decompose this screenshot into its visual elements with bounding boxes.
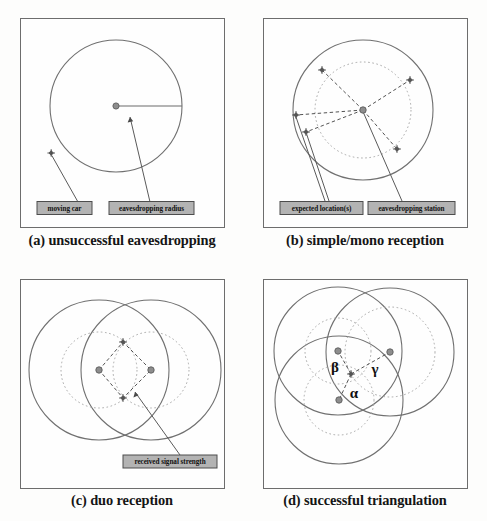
car-markers xyxy=(292,66,414,153)
car-marker xyxy=(47,149,55,157)
link-station-car-5 xyxy=(363,110,397,149)
station-marker xyxy=(96,367,102,373)
leader-line-moving-car xyxy=(52,156,78,203)
link-station-car-1 xyxy=(322,70,363,110)
reception-links xyxy=(296,70,410,149)
link-station-car-2 xyxy=(363,80,410,110)
label-eavesdropping-station-text: eavesdropping station xyxy=(378,205,444,213)
link-station-car-3 xyxy=(296,110,363,115)
label-eavesdropping-station: eavesdropping station xyxy=(368,202,455,215)
station-marker xyxy=(336,397,342,403)
label-eavesdropping-radius: eavesdropping radius xyxy=(109,202,194,215)
caption-panel-d: (d) successful triangulation xyxy=(245,492,485,509)
link-rhombus xyxy=(99,342,151,398)
duo-reception-links xyxy=(99,342,151,398)
annotation-beta: β xyxy=(331,359,339,375)
station-marker xyxy=(387,349,393,355)
label-moving-car: moving car xyxy=(37,202,92,215)
label-expected-locations: expected location(s) xyxy=(280,202,363,215)
annotation-alpha: α xyxy=(350,385,359,401)
leader-line-eavesdropping-radius xyxy=(130,117,150,202)
panel-d-successful-triangulation: β γ α xyxy=(263,279,468,489)
label-received-signal-strength: received signal strength xyxy=(123,455,217,468)
figure-four-panel-diagram: moving car eavesdropping radius (a) unsu… xyxy=(0,0,487,521)
caption-panel-a: (a) unsuccessful eavesdropping xyxy=(2,232,242,249)
leader-line-eavesdropping-station xyxy=(364,113,402,201)
panel-c-graphic: received signal strength xyxy=(20,279,225,489)
annotation-gamma: γ xyxy=(370,361,378,377)
caption-panel-b: (b) simple/mono reception xyxy=(245,232,485,249)
panel-a-graphic: moving car eavesdropping radius xyxy=(20,18,225,228)
panel-b-simple-mono-reception: expected location(s) eavesdropping stati… xyxy=(263,18,468,228)
car-marker xyxy=(318,66,326,74)
leader-line-received-signal-strength xyxy=(135,392,180,455)
station-marker xyxy=(360,107,366,113)
arrowhead-eavesdropping-radius xyxy=(128,117,134,122)
car-marker xyxy=(302,128,310,136)
label-expected-locations-text: expected location(s) xyxy=(292,205,352,213)
station-marker xyxy=(148,367,154,373)
panel-d-graphic: β γ α xyxy=(263,279,468,489)
leader-line-expected-location-2 xyxy=(307,134,329,201)
leader-line-expected-location-1 xyxy=(296,117,325,201)
car-marker xyxy=(406,76,414,84)
station-markers xyxy=(96,367,154,373)
station-marker xyxy=(113,103,119,109)
panel-b-graphic: expected location(s) eavesdropping stati… xyxy=(263,18,468,228)
station-marker xyxy=(335,348,341,354)
car-marker xyxy=(347,370,355,378)
label-moving-car-text: moving car xyxy=(47,205,82,213)
label-received-signal-strength-text: received signal strength xyxy=(134,458,205,466)
car-marker xyxy=(393,145,401,153)
caption-panel-c: (c) duo reception xyxy=(2,492,242,509)
label-eavesdropping-radius-text: eavesdropping radius xyxy=(119,205,184,213)
panel-a-unsuccessful-eavesdropping: moving car eavesdropping radius xyxy=(20,18,225,228)
panel-c-duo-reception: received signal strength xyxy=(20,279,225,489)
